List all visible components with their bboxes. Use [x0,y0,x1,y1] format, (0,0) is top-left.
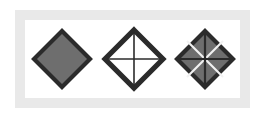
figure-root [0,0,266,117]
shape-slot-2 [103,28,165,90]
shape-row [25,20,240,98]
outline-diamond-with-cross [103,28,165,90]
gray-diamond-eight-wedges [174,28,236,90]
diamond-body-solid [34,31,90,87]
shape-slot-1 [31,28,93,90]
solid-gray-diamond [31,28,93,90]
shape-slot-3 [174,28,236,90]
